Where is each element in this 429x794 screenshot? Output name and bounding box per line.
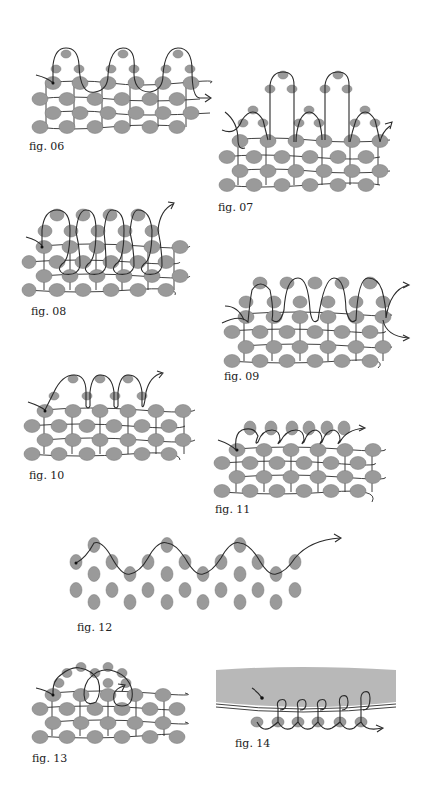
bead-rows — [32, 50, 199, 134]
figure-caption: fig. 11 — [215, 503, 250, 516]
figure-caption: fig. 12 — [77, 621, 112, 634]
start-point-icon — [52, 694, 55, 697]
beadwork-diagram-fig07 — [210, 60, 429, 220]
figure-caption: fig. 08 — [31, 305, 66, 318]
figure-06: fig. 06 — [0, 0, 220, 160]
figure-caption: fig. 10 — [29, 469, 64, 482]
figure-12: fig. 12 — [50, 530, 350, 640]
start-point-icon — [41, 246, 44, 249]
figure-14: fig. 14 — [200, 660, 429, 760]
needle-point-icon — [260, 696, 264, 700]
figure-10: fig. 10 — [0, 370, 200, 490]
beadwork-diagram-fig11 — [200, 400, 420, 520]
start-point-icon — [236, 449, 239, 452]
beadwork-diagram-fig13 — [0, 650, 200, 780]
figure-caption: fig. 06 — [29, 140, 64, 153]
figure-caption: fig. 14 — [235, 737, 270, 750]
figure-08: fig. 08 — [0, 190, 210, 330]
start-point-icon — [44, 410, 47, 413]
figure-11: fig. 11 — [200, 400, 420, 520]
figure-caption: fig. 13 — [32, 752, 67, 765]
figure-caption: fig. 07 — [218, 201, 253, 214]
start-point-icon — [75, 562, 78, 565]
beadwork-diagram-fig06 — [0, 0, 220, 160]
figure-13: fig. 13 — [0, 650, 200, 780]
figure-caption: fig. 09 — [224, 370, 259, 383]
figure-07: fig. 07 — [210, 60, 429, 220]
figure-09: fig. 09 — [200, 270, 429, 400]
start-point-icon — [52, 82, 55, 85]
